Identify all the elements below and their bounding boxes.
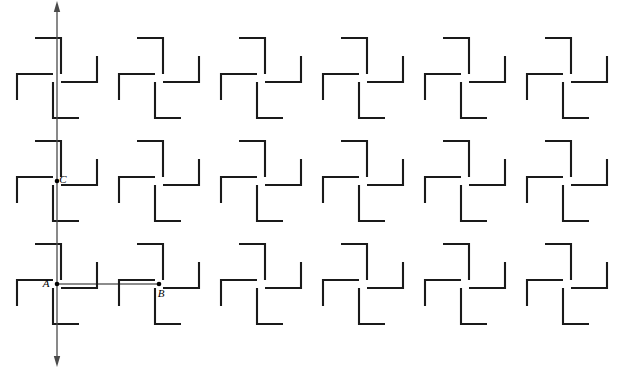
motif-elbow	[137, 38, 163, 74]
motif	[323, 244, 403, 324]
point-b-label: B	[158, 287, 165, 299]
motif-elbow	[527, 280, 563, 306]
point-b-dot	[157, 282, 162, 287]
motif-elbow	[257, 185, 283, 221]
motif-elbow	[323, 280, 359, 306]
motif-elbow	[425, 74, 461, 100]
motif-elbow	[469, 56, 505, 82]
node-layer	[55, 179, 162, 287]
motif-elbow	[443, 244, 469, 280]
motif	[221, 141, 301, 221]
motif-elbow	[443, 141, 469, 177]
motif-elbow	[221, 177, 257, 203]
motif	[527, 141, 607, 221]
motif-elbow	[257, 82, 283, 118]
motif-elbow	[155, 185, 181, 221]
motif-elbow	[163, 262, 199, 288]
motif	[323, 38, 403, 118]
motif-elbow	[163, 159, 199, 185]
motif-elbow	[359, 288, 385, 324]
motif-elbow	[257, 288, 283, 324]
motif-elbow	[239, 244, 265, 280]
motif	[527, 244, 607, 324]
motif-elbow	[265, 56, 301, 82]
motif-layer	[17, 38, 607, 324]
motif-elbow	[221, 280, 257, 306]
motif-elbow	[527, 177, 563, 203]
motif-elbow	[545, 244, 571, 280]
motif-elbow	[341, 141, 367, 177]
motif-elbow	[563, 288, 589, 324]
motif-elbow	[563, 82, 589, 118]
motif-elbow	[469, 262, 505, 288]
motif-elbow	[469, 159, 505, 185]
motif-elbow	[119, 74, 155, 100]
motif-elbow	[221, 74, 257, 100]
motif-elbow	[367, 159, 403, 185]
motif-elbow	[359, 82, 385, 118]
motif-elbow	[461, 82, 487, 118]
motif-elbow	[367, 56, 403, 82]
motif-elbow	[239, 38, 265, 74]
motif-elbow	[323, 177, 359, 203]
motif-elbow	[137, 141, 163, 177]
motif	[119, 38, 199, 118]
motif-elbow	[17, 74, 53, 100]
motif-elbow	[137, 244, 163, 280]
axis-arrow-up-icon	[54, 1, 60, 12]
motif	[425, 38, 505, 118]
point-c-label: C	[59, 173, 67, 185]
motif	[221, 244, 301, 324]
motif-elbow	[443, 38, 469, 74]
motif-elbow	[359, 185, 385, 221]
motif	[119, 141, 199, 221]
motif-elbow	[155, 82, 181, 118]
motif-elbow	[545, 141, 571, 177]
motif-elbow	[571, 159, 607, 185]
motif-elbow	[17, 177, 53, 203]
motif-elbow	[341, 244, 367, 280]
motif-elbow	[367, 262, 403, 288]
motif-elbow	[265, 159, 301, 185]
motif-elbow	[265, 262, 301, 288]
motif-elbow	[571, 262, 607, 288]
motif	[323, 141, 403, 221]
motif	[221, 38, 301, 118]
motif-elbow	[239, 141, 265, 177]
motif-elbow	[461, 288, 487, 324]
motif-elbow	[563, 185, 589, 221]
motif-elbow	[425, 177, 461, 203]
motif-elbow	[461, 185, 487, 221]
motif-elbow	[323, 74, 359, 100]
point-a-dot	[55, 282, 60, 287]
axis-arrow-down-icon	[54, 356, 60, 367]
motif-elbow	[119, 177, 155, 203]
lattice-figure-canvas: ABC	[0, 0, 626, 369]
motif-elbow	[425, 280, 461, 306]
motif	[425, 244, 505, 324]
motif-elbow	[341, 38, 367, 74]
motif-elbow	[61, 56, 97, 82]
motif-elbow	[545, 38, 571, 74]
motif-elbow	[571, 56, 607, 82]
motif-elbow	[163, 56, 199, 82]
motif	[425, 141, 505, 221]
point-a-label: A	[42, 277, 50, 289]
motif-elbow	[527, 74, 563, 100]
lattice-diagram-svg: ABC	[0, 0, 626, 369]
motif	[527, 38, 607, 118]
